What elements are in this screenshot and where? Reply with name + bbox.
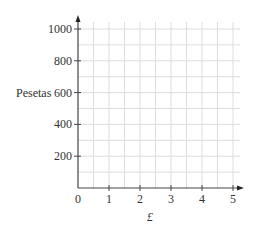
x-axis-arrow-icon [237,186,244,191]
y-ticks: 2004006008001000 [48,22,81,163]
x-axis-label: £ [147,210,153,224]
x-tick-label: 4 [199,192,205,206]
y-tick-label: 800 [54,54,72,68]
y-axis-arrow-icon [76,15,81,22]
x-tick-label: 1 [106,192,112,206]
y-axis-label: Pesetas [16,86,52,100]
chart: 2004006008001000 012345 Pesetas £ [0,0,258,228]
y-tick-label: 200 [54,149,72,163]
x-tick-label: 5 [230,192,236,206]
x-tick-label: 2 [137,192,143,206]
x-tick-label: 3 [168,192,174,206]
grid-lines [78,22,240,188]
y-tick-label: 400 [54,117,72,131]
x-tick-label: 0 [75,192,81,206]
y-tick-label: 600 [54,86,72,100]
axes [76,15,245,191]
y-tick-label: 1000 [48,22,72,36]
